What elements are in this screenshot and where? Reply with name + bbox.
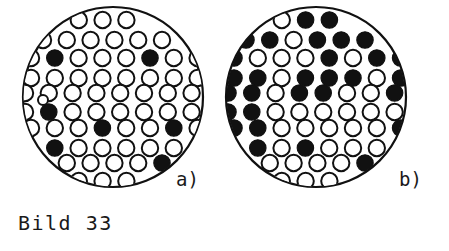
open-cell [183,85,199,101]
open-cell [142,140,158,156]
figure-caption: Bild 33 [18,211,113,235]
open-cell [64,85,80,101]
open-cell [363,104,379,120]
open-cell [315,104,331,120]
filled-cell [321,12,337,28]
open-cell [70,50,86,66]
open-cell [82,32,98,48]
open-cell [160,85,176,101]
open-cell [59,32,75,48]
open-cell [386,104,402,120]
open-cell [297,50,313,66]
filled-cell [297,70,313,86]
filled-cell [386,85,402,101]
open-cell [262,155,278,171]
filled-cell [166,120,182,136]
open-cell [59,155,75,171]
open-cell [166,140,182,156]
open-cell [363,85,379,101]
open-cell [106,32,122,48]
open-cell [94,12,110,28]
open-cell [118,140,134,156]
open-cell [291,104,307,120]
open-cell [339,104,355,120]
open-cell [339,85,355,101]
open-cell [47,120,63,136]
open-cell [166,70,182,86]
open-cell [321,140,337,156]
open-cell [273,120,289,136]
filled-cell [262,32,278,48]
open-cell [94,70,110,86]
filled-cell [142,50,158,66]
open-cell [112,85,128,101]
filled-cell [333,32,349,48]
open-cell [118,120,134,136]
filled-cell [309,32,325,48]
open-cell [345,120,361,136]
open-cell [130,155,146,171]
open-cell [47,70,63,86]
open-cell [136,85,152,101]
open-cell [118,12,134,28]
open-cell [82,155,98,171]
figure-bild-33: a) b) Bild 33 [0,0,449,251]
open-cell [250,50,266,66]
open-cell [297,120,313,136]
open-cell [369,70,385,86]
open-cell [369,140,385,156]
open-cell [183,104,199,120]
panel-b-label: b) [399,168,422,190]
open-cell [70,120,86,136]
open-cell [154,32,170,48]
open-cell [273,50,289,66]
open-cell [345,140,361,156]
filled-cell [297,12,313,28]
filled-cell [250,70,266,86]
filled-cell [357,32,373,48]
open-cell [160,104,176,120]
open-cell [309,155,325,171]
filled-cell [369,50,385,66]
filled-cell [321,70,337,86]
open-cell [267,85,283,101]
open-cell [136,104,152,120]
open-cell [88,85,104,101]
filled-cell [94,120,110,136]
open-cell [118,70,134,86]
open-cell [88,104,104,120]
open-cell [130,32,146,48]
open-cell [118,50,134,66]
filled-cell [47,140,63,156]
filled-cell [297,140,313,156]
filled-cell [250,140,266,156]
filled-cell [244,104,260,120]
open-cell [70,70,86,86]
open-cell [273,140,289,156]
filled-cell [291,85,307,101]
filled-cell [244,85,260,101]
open-cell [345,50,361,66]
open-cell [112,104,128,120]
filled-cell [41,104,57,120]
open-cell [321,120,337,136]
filled-cell [321,50,337,66]
open-cell [142,70,158,86]
filled-cell [315,85,331,101]
open-cell [273,70,289,86]
open-cell [166,50,182,66]
open-cell [106,155,122,171]
open-cell [94,50,110,66]
filled-cell [47,50,63,66]
filled-cell [345,70,361,86]
filled-cell [250,120,266,136]
panel-a-label: a) [176,168,199,190]
open-cell [267,104,283,120]
open-cell [38,95,48,105]
open-cell [369,120,385,136]
open-cell [285,155,301,171]
open-cell [94,140,110,156]
open-cell [333,155,349,171]
open-cell [70,140,86,156]
open-cell [142,120,158,136]
